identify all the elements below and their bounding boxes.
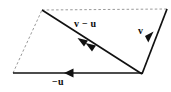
- dashed-top-edge: [42, 9, 167, 10]
- vector-diagram-canvas: [0, 0, 171, 92]
- vector-minus-u-arrowhead: [64, 69, 74, 78]
- label-minus-u: −u: [52, 77, 64, 87]
- dashed-left-edge: [13, 10, 42, 73]
- vector-v-shaft: [142, 9, 167, 74]
- label-v-minus-u: v − u: [74, 19, 96, 29]
- vector-diagram-figure: v − u v −u: [0, 0, 171, 92]
- label-v: v: [138, 26, 143, 36]
- vector-v-arrowhead: [145, 32, 154, 43]
